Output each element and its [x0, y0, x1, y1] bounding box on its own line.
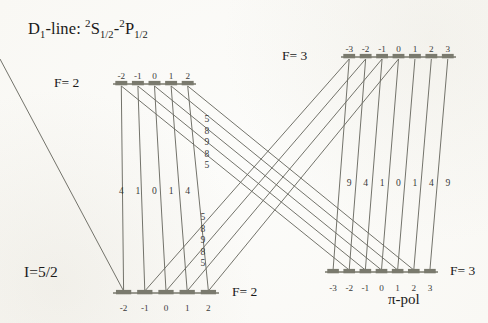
m-quantum-number: 0 [152, 72, 157, 81]
level-f-label: F= 2 [232, 285, 257, 299]
m-sublevel-tick [360, 269, 372, 273]
m-quantum-number: -2 [345, 284, 353, 293]
transition-strength-label: 0 [152, 186, 157, 196]
m-quantum-number: 2 [185, 72, 190, 81]
m-sublevel-tick [158, 290, 173, 294]
pi-cross-transition-line [145, 59, 349, 291]
m-sublevel-tick [376, 269, 388, 273]
m-sublevel-tick [137, 290, 152, 294]
figure-title: D1-line: 2S1/2-2P1/2 [28, 18, 148, 40]
m-quantum-number: 3 [445, 45, 450, 54]
transition-strength-label: 8 [205, 149, 210, 159]
pi-cross-transition-line [121, 86, 349, 270]
m-quantum-number: 2 [429, 45, 434, 54]
m-quantum-number: 1 [413, 45, 418, 54]
m-sublevel-tick [343, 54, 355, 58]
m-sublevel-tick [165, 81, 177, 85]
m-sublevel-tick [201, 290, 216, 294]
m-quantum-number: -2 [120, 304, 128, 313]
m-sublevel-tick [442, 54, 454, 58]
m-quantum-number: 0 [396, 45, 401, 54]
m-sublevel-tick [116, 290, 131, 294]
upper-term-letter: P [125, 19, 134, 38]
pi-transition-line [349, 59, 365, 270]
title-d-letter: D [28, 19, 40, 38]
m-quantum-number: 2 [206, 304, 211, 313]
m-quantum-number: 1 [185, 304, 190, 313]
transition-strength-label: 9 [205, 137, 210, 147]
m-quantum-number: 1 [395, 284, 400, 293]
m-sublevel-tick [182, 81, 194, 85]
m-quantum-number: -2 [362, 45, 370, 54]
level-f-label: F= 3 [282, 49, 307, 63]
m-sublevel-tick [392, 269, 404, 273]
pi-cross-transition-line [187, 59, 382, 291]
m-sublevel-tick [409, 54, 421, 58]
transition-strength-label: 8 [201, 247, 206, 257]
m-quantum-number: -1 [141, 304, 149, 313]
transition-strength-label: 8 [201, 224, 206, 234]
m-quantum-number: 0 [379, 284, 384, 293]
transition-strength-label: 5 [201, 212, 206, 222]
transition-strength-label: 5 [205, 160, 210, 170]
m-sublevel-tick [132, 81, 144, 85]
m-quantum-number: 1 [169, 72, 174, 81]
m-quantum-number: -3 [329, 284, 337, 293]
lower-term-j: 1/2 [100, 29, 114, 40]
transition-strength-label: 8 [205, 126, 210, 136]
m-quantum-number: 3 [428, 284, 433, 293]
transition-strength-label: 4 [185, 186, 190, 196]
transition-strength-label: 9 [347, 178, 352, 188]
m-sublevel-tick [393, 54, 405, 58]
transition-strength-label: 4 [363, 178, 368, 188]
transition-lines-layer [0, 59, 448, 291]
m-sublevel-tick [376, 54, 388, 58]
m-quantum-number: -3 [345, 45, 353, 54]
transition-strength-label: 0 [396, 178, 401, 188]
pi-transition-line [414, 59, 432, 270]
transition-strength-label: 4 [119, 186, 124, 196]
m-quantum-number: -2 [117, 72, 125, 81]
m-sublevel-tick [180, 290, 195, 294]
m-sublevel-tick [115, 81, 127, 85]
m-quantum-number: -1 [378, 45, 386, 54]
m-quantum-number: 2 [411, 284, 416, 293]
nuclear-spin-label: I=5/2 [24, 264, 58, 280]
transition-strength-label: 1 [380, 178, 385, 188]
pi-transition-line [333, 59, 349, 270]
m-quantum-number: -1 [134, 72, 142, 81]
m-sublevel-tick [327, 269, 339, 273]
m-quantum-number: 0 [164, 304, 169, 313]
pi-transition-line [382, 59, 399, 270]
m-sublevel-tick [425, 54, 437, 58]
m-sublevel-tick [360, 54, 372, 58]
m-sublevel-tick [149, 81, 161, 85]
pi-transition-line [398, 59, 415, 270]
m-sublevel-tick [424, 269, 436, 273]
pi-transition-line [430, 59, 448, 270]
transition-strength-label: 9 [201, 235, 206, 245]
transition-strength-label: 1 [169, 186, 174, 196]
transition-strength-label: 4 [429, 178, 434, 188]
pi-cross-transition-line [138, 86, 365, 270]
lower-term-letter: S [91, 19, 100, 38]
level-f-label: F= 2 [54, 76, 79, 90]
pi-cross-transition-line [0, 59, 124, 291]
transition-strength-label: 1 [413, 178, 418, 188]
pi-cross-transition-line [166, 59, 366, 291]
pi-cross-transition-line [208, 59, 398, 291]
m-sublevel-tick [408, 269, 420, 273]
title-line-text: -line: [45, 19, 85, 38]
m-sublevel-tick [343, 269, 355, 273]
level-f-label: F= 3 [450, 264, 475, 278]
pi-transition-line [365, 59, 382, 270]
m-quantum-number: -1 [362, 284, 370, 293]
transition-strength-label: 1 [135, 186, 140, 196]
upper-term-j: 1/2 [134, 29, 148, 40]
polarization-label: π-pol [388, 292, 420, 307]
transition-strength-label: 9 [445, 178, 450, 188]
transition-strength-label: 5 [205, 114, 210, 124]
transition-strength-label: 5 [201, 258, 206, 268]
figure-canvas: D1-line: 2S1/2-2P1/2 I=5/2 π-pol -2-1012… [0, 0, 488, 323]
